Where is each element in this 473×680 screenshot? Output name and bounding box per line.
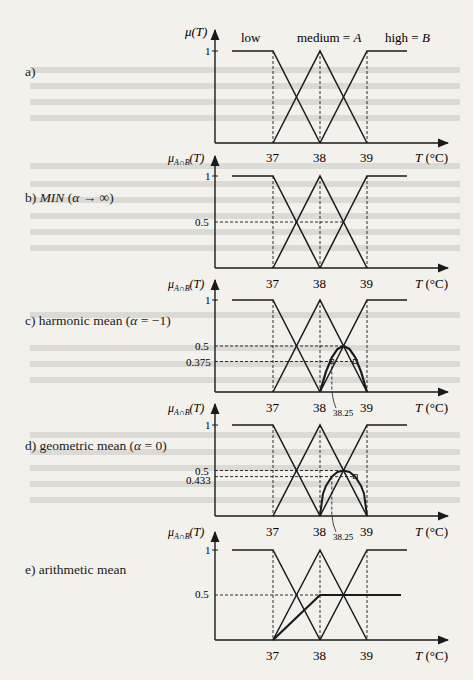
- svg-text:39: 39: [360, 400, 373, 415]
- svg-text:38: 38: [313, 524, 326, 539]
- panel-e: μA∩B(T) 1 0.5 37 38 39 T (°C): [167, 525, 448, 663]
- svg-text:μA∩B(T): μA∩B(T): [167, 525, 204, 541]
- svg-text:T (°C): T (°C): [415, 400, 448, 415]
- x-tick-38: 38: [313, 150, 326, 165]
- svg-text:38: 38: [313, 276, 326, 291]
- fuzzy-intersection-figure: μ(T) low medium = A high = B 1 37 38 39 …: [0, 0, 473, 680]
- x-tick-39: 39: [360, 150, 373, 165]
- svg-text:38: 38: [313, 400, 326, 415]
- svg-text:0.375: 0.375: [186, 356, 211, 368]
- svg-text:38.25: 38.25: [333, 532, 354, 542]
- svg-text:37: 37: [266, 648, 280, 663]
- svg-text:μA∩B(T): μA∩B(T): [167, 277, 204, 293]
- high-curve: [320, 51, 407, 143]
- x-axis-label: T (°C): [415, 150, 448, 165]
- svg-text:1: 1: [205, 544, 211, 556]
- svg-text:37: 37: [266, 400, 280, 415]
- x-tick-38-25: 38.25: [333, 408, 354, 418]
- svg-text:T (°C): T (°C): [415, 524, 448, 539]
- y-tick-1: 1: [205, 45, 211, 57]
- panel-a: μ(T) low medium = A high = B 1 37 38 39 …: [184, 24, 448, 165]
- low-curve: [232, 51, 320, 143]
- svg-text:39: 39: [360, 276, 373, 291]
- svg-text:μA∩B(T): μA∩B(T): [167, 401, 204, 417]
- legend-low: low: [241, 30, 261, 45]
- panel-c: μA∩B(T) 1 0.5 0.375 37 38 38.25 39 T (°C…: [167, 277, 448, 418]
- svg-text:T (°C): T (°C): [415, 648, 448, 663]
- legend-medium: medium = A: [297, 30, 361, 45]
- y-axis-label: μ(T): [184, 24, 207, 39]
- y-axis-label: μA∩B(T): [167, 151, 204, 167]
- svg-text:T (°C): T (°C): [415, 276, 448, 291]
- panel-d: μA∩B(T) 1 0.5 0.433 37 38 38.25 39 T (°C…: [167, 401, 448, 542]
- svg-text:0.433: 0.433: [186, 474, 211, 486]
- svg-text:37: 37: [266, 524, 280, 539]
- svg-text:37: 37: [266, 276, 280, 291]
- x-tick-37: 37: [266, 150, 280, 165]
- svg-text:0.5: 0.5: [195, 340, 209, 352]
- svg-text:39: 39: [360, 648, 373, 663]
- svg-text:1: 1: [205, 294, 211, 306]
- svg-text:0.5: 0.5: [195, 588, 209, 600]
- svg-text:1: 1: [205, 170, 211, 182]
- svg-text:39: 39: [360, 524, 373, 539]
- svg-text:38: 38: [313, 648, 326, 663]
- legend-high: high = B: [385, 30, 430, 45]
- svg-text:0.5: 0.5: [195, 216, 209, 228]
- svg-text:1: 1: [205, 419, 211, 431]
- panel-b: μA∩B(T) 1 0.5 37 38 39 T (°C): [167, 151, 448, 291]
